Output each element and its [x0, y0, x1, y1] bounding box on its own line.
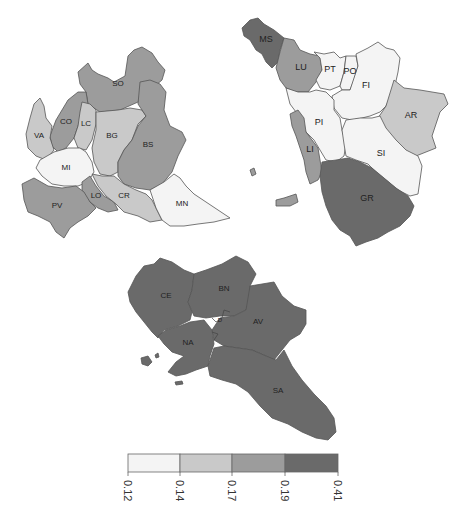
- label-AV: AV: [253, 317, 264, 326]
- label-LC: LC: [81, 119, 91, 128]
- label-BS: BS: [143, 140, 154, 149]
- map-lombardia: SO CO LC VA BG BS MI LO CR PV MN: [22, 47, 230, 238]
- label-MS: MS: [259, 34, 273, 44]
- label-MI: MI: [62, 163, 71, 172]
- label-LO: LO: [91, 191, 102, 200]
- label-LI: LI: [306, 144, 314, 154]
- legend-break-0: 0.12: [122, 480, 134, 501]
- legend-swatch-1: [128, 454, 180, 472]
- label-AR: AR: [405, 110, 418, 120]
- map-toscana: MS LU PT PO FI PI AR LI SI GR: [242, 18, 448, 246]
- label-PV: PV: [52, 201, 63, 210]
- label-PO: PO: [343, 66, 356, 76]
- label-PI: PI: [315, 117, 324, 127]
- label-CO: CO: [60, 117, 72, 126]
- legend: 0.12 0.14 0.17 0.19 0.41: [122, 454, 344, 501]
- label-CE: CE: [160, 291, 171, 300]
- legend-swatch-2: [180, 454, 232, 472]
- island-ischia: [141, 356, 152, 366]
- choropleth-figure: SO CO LC VA BG BS MI LO CR PV MN: [0, 0, 470, 514]
- label-GR: GR: [360, 193, 374, 203]
- label-BN: BN: [218, 284, 229, 293]
- legend-swatch-3: [232, 454, 285, 472]
- legend-break-2: 0.17: [226, 480, 238, 501]
- label-D: D: [218, 317, 223, 323]
- label-PT: PT: [324, 64, 336, 74]
- map-campania: CE BN AV NA SA D: [128, 256, 336, 440]
- label-VA: VA: [34, 131, 45, 140]
- island-elba: [276, 194, 298, 206]
- label-MN: MN: [176, 199, 189, 208]
- label-SO: SO: [112, 79, 124, 88]
- legend-break-1: 0.14: [174, 480, 186, 501]
- region-VA: [26, 98, 54, 160]
- label-LU: LU: [295, 62, 307, 72]
- label-NA: NA: [182, 338, 194, 347]
- legend-swatch-4: [285, 454, 338, 472]
- island-procida: [155, 353, 159, 358]
- label-SA: SA: [273, 386, 284, 395]
- legend-break-4: 0.41: [332, 480, 344, 501]
- label-SI: SI: [377, 148, 386, 158]
- legend-break-3: 0.19: [279, 480, 291, 501]
- label-BG: BG: [106, 131, 118, 140]
- label-FI: FI: [362, 80, 370, 90]
- island-capri: [175, 381, 183, 385]
- label-CR: CR: [118, 191, 130, 200]
- island-small: [250, 168, 256, 176]
